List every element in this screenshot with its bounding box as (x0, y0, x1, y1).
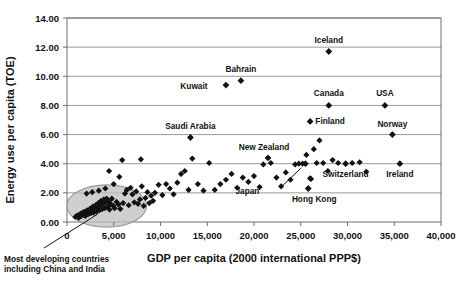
y-tick-label: 4.00 (41, 158, 60, 169)
y-axis-title: Energy use per capita (TOE) (4, 56, 16, 203)
x-axis-title: GDP per capita (2000 international PPP$) (147, 252, 361, 264)
y-tick-label: 14.00 (35, 13, 59, 24)
x-tick-label: 25,000 (286, 230, 315, 241)
point-label-switzerland: Switzerland (323, 169, 369, 179)
point-label-hong-kong: Hong Kong (292, 194, 337, 204)
y-tick-label: 10.00 (35, 71, 59, 82)
y-tick-label: 6.00 (41, 129, 60, 140)
x-tick-label: 10,000 (146, 230, 175, 241)
point-label-saudi-arabia: Saudi Arabia (165, 121, 216, 131)
x-tick-label: 40,000 (426, 230, 455, 241)
point-label-usa: USA (376, 88, 394, 98)
point-label-new-zealand: New Zealand (239, 142, 290, 152)
x-tick-label: 0 (64, 230, 69, 241)
y-tick-label: 0.00 (41, 217, 60, 228)
point-label-ireland: Ireland (386, 169, 413, 179)
point-label-japan: Japan (235, 186, 259, 196)
chart-figure: 05,00010,00015,00020,00025,00030,00035,0… (0, 0, 472, 283)
point-label-norway: Norway (377, 119, 407, 129)
x-tick-label: 5,000 (102, 230, 126, 241)
x-tick-label: 20,000 (239, 230, 268, 241)
y-tick-label: 2.00 (41, 187, 60, 198)
callout-line-2: including China and India (4, 264, 105, 274)
energy-vs-gdp-scatter-chart: 05,00010,00015,00020,00025,00030,00035,0… (0, 0, 472, 283)
y-tick-label: 8.00 (41, 100, 60, 111)
x-tick-label: 15,000 (193, 230, 222, 241)
point-label-bahrain: Bahrain (225, 64, 256, 74)
point-label-kuwait: Kuwait (180, 81, 207, 91)
point-label-finland: Finland (315, 116, 345, 126)
point-label-canada: Canada (314, 88, 344, 98)
point-label-iceland: Iceland (315, 35, 344, 45)
x-tick-label: 35,000 (380, 230, 409, 241)
y-tick-label: 12.00 (35, 42, 59, 53)
x-tick-label: 30,000 (333, 230, 362, 241)
callout-line-1: Most developing countries (4, 254, 109, 264)
